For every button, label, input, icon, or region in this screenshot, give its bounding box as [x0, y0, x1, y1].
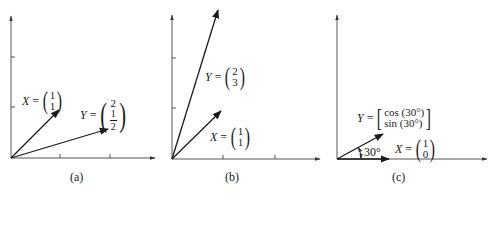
column-vector: ( 2 12 ) — [98, 98, 128, 132]
vector-name: Y — [205, 70, 212, 85]
component: 3 — [232, 77, 238, 88]
panel-b-caption: (b) — [225, 170, 239, 185]
equals-sign: = — [367, 111, 374, 126]
column-vector: [ cos (30°)sin (30°) ] — [375, 105, 432, 131]
equals-sign: = — [405, 142, 412, 157]
panel-c-vectors — [337, 134, 389, 159]
equals-sign: = — [90, 108, 97, 123]
vector-name: X — [210, 130, 217, 145]
column-vector: ( 23 ) — [223, 64, 246, 90]
component: 0 — [423, 149, 429, 160]
column-vector: ( 10 ) — [414, 136, 437, 162]
vector-name: Y — [80, 108, 87, 123]
angle-label: 30° — [364, 145, 381, 160]
vector-name: Y — [357, 111, 364, 126]
panel-c-label-y: Y = [ cos (30°)sin (30°) ] — [357, 105, 433, 131]
vector-name: X — [22, 94, 29, 109]
component: 1 — [50, 101, 56, 112]
panel-b-label-y: Y = ( 23 ) — [205, 64, 246, 90]
denominator: 2 — [111, 122, 116, 132]
panel-c-caption: (c) — [392, 170, 405, 185]
panel-a-caption: (a) — [70, 170, 83, 185]
numerator: 1 — [111, 109, 116, 119]
column-vector: ( 11 ) — [41, 88, 64, 114]
panel-c-label-x: X = ( 10 ) — [395, 136, 437, 162]
angle-arc — [358, 147, 361, 159]
panel-a-label-y: Y = ( 2 12 ) — [80, 98, 128, 132]
vector-name: X — [395, 142, 402, 157]
equals-sign: = — [220, 130, 227, 145]
panel-a-label-x: X = ( 11 ) — [22, 88, 64, 114]
fraction: 12 — [110, 109, 117, 132]
component: sin (30°) — [384, 118, 422, 129]
column-vector: ( 11 ) — [229, 124, 252, 150]
panel-b-label-x: X = ( 11 ) — [210, 124, 252, 150]
equals-sign: = — [215, 70, 222, 85]
equals-sign: = — [32, 94, 39, 109]
component: 1 — [238, 137, 244, 148]
